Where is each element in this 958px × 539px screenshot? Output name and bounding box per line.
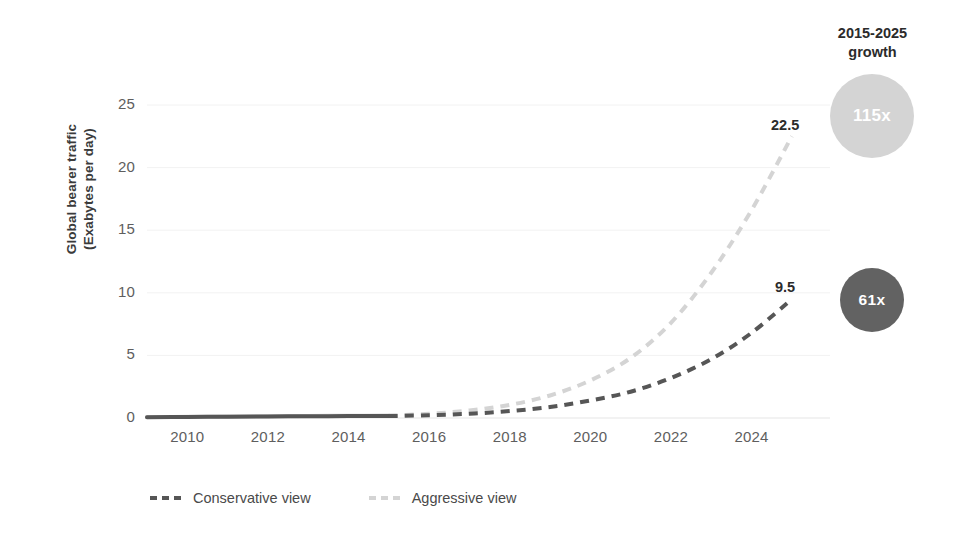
x-axis-tick-label: 2012 (233, 428, 303, 445)
growth-title-line2: growth (795, 43, 950, 62)
x-axis-tick-label: 2022 (636, 428, 706, 445)
endpoint-label-conservative: 9.5 (775, 279, 795, 295)
series-line-forecast (389, 136, 792, 415)
legend-dash-icon-aggressive (369, 496, 403, 500)
endpoint-label-aggressive: 22.5 (771, 117, 799, 133)
legend-label-conservative: Conservative view (193, 490, 311, 506)
legend-item-conservative[interactable]: Conservative view (150, 490, 311, 506)
growth-bubble-aggressive: 115x (830, 74, 914, 158)
x-axis-tick-label: 2024 (717, 428, 787, 445)
gridlines (147, 105, 830, 418)
x-axis-tick-label: 2010 (152, 428, 222, 445)
x-axis-tick-label: 2016 (394, 428, 464, 445)
growth-bubble-conservative-label: 61x (859, 291, 886, 309)
series-line-forecast (389, 299, 792, 416)
x-axis-tick-label: 2014 (314, 428, 384, 445)
growth-bubble-conservative: 61x (840, 268, 904, 332)
chart-legend: Conservative view Aggressive view (150, 490, 516, 506)
series-line-historical (147, 416, 389, 417)
growth-title-line1: 2015-2025 (795, 24, 950, 43)
legend-dash-icon-conservative (150, 496, 184, 500)
y-axis-tick-label: 15 (89, 220, 135, 237)
series-curves (147, 136, 792, 417)
x-axis-tick-label: 2020 (555, 428, 625, 445)
y-axis-tick-label: 10 (89, 283, 135, 300)
chart-canvas: Global bearer traffic (Exabytes per day)… (0, 0, 958, 539)
plot-area (0, 0, 958, 539)
legend-item-aggressive[interactable]: Aggressive view (369, 490, 517, 506)
y-axis-tick-label: 20 (89, 158, 135, 175)
y-axis-tick-label: 5 (89, 345, 135, 362)
legend-label-aggressive: Aggressive view (412, 490, 517, 506)
growth-bubble-aggressive-label: 115x (853, 106, 891, 126)
growth-panel-title: 2015-2025 growth (795, 24, 950, 62)
y-axis-tick-label: 25 (89, 95, 135, 112)
x-axis-tick-label: 2018 (475, 428, 545, 445)
y-axis-tick-label: 0 (89, 408, 135, 425)
